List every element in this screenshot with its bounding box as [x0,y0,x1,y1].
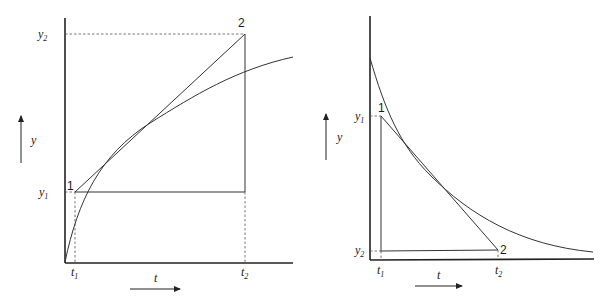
right-point-2-label: 2 [500,243,507,257]
figure-canvas: 1 2 y2 y1 t1 t2 y t 1 2 y1 y2 [0,0,605,306]
right-y-axis-label: y [336,130,343,144]
right-t2-label: t2 [495,263,502,279]
right-chord [381,116,498,250]
right-horizontal [381,250,498,251]
left-y1-label: y1 [38,185,48,201]
left-point-1-label: 1 [67,179,74,193]
left-point-2-label: 2 [238,16,245,30]
right-y2-label: y2 [354,243,364,259]
right-t1-label: t1 [377,263,384,279]
left-curve [65,57,293,262]
right-point-1-label: 1 [378,101,385,115]
left-t-axis-label: t [154,271,158,285]
right-t-axis-label: t [437,268,441,282]
left-y2-label: y2 [37,27,47,43]
left-t2-label: t2 [241,265,248,281]
right-panel: 1 2 y1 y2 t1 t2 y t [326,16,594,286]
right-y1-label: y1 [354,109,364,125]
left-t1-label: t1 [71,265,78,281]
left-chord [75,34,245,192]
right-x-axis [370,259,594,260]
left-panel: 1 2 y2 y1 t1 t2 y t [21,16,293,289]
left-y-axis-label: y [30,133,37,147]
right-curve [370,58,593,252]
